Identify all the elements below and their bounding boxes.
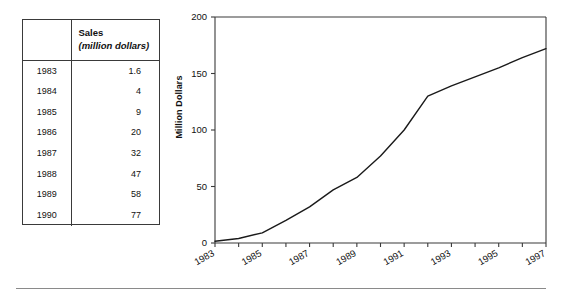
table-row: 198620 — [23, 122, 159, 143]
y-tick-label: 150 — [191, 68, 207, 79]
table-row: 19844 — [23, 81, 159, 102]
cell-year: 1989 — [23, 184, 71, 205]
table-row: 199077 — [23, 205, 159, 226]
table-body: 19831.6198441985919862019873219884719895… — [23, 60, 159, 226]
cell-year: 1990 — [23, 205, 71, 226]
y-tick-label: 100 — [191, 124, 207, 135]
header-year-blank — [23, 20, 71, 60]
figure-root: Sales (million dollars) 19831.6198441985… — [0, 0, 562, 297]
x-tick-label: 1997 — [523, 247, 547, 267]
x-tick-label: 1985 — [239, 247, 263, 267]
cell-sales: 1.6 — [71, 60, 159, 81]
x-tick-label: 1989 — [334, 247, 358, 267]
x-tick-label: 1987 — [287, 247, 311, 267]
x-axis-ticks — [215, 243, 546, 247]
table: Sales (million dollars) 19831.6198441985… — [23, 20, 159, 226]
header-sales: Sales (million dollars) — [71, 20, 159, 60]
bottom-divider-rule — [16, 288, 546, 289]
chart-svg: 050100150200 198319851987198919911993199… — [160, 0, 562, 297]
y-axis-ticks: 050100150200 — [191, 11, 215, 248]
line-chart: Million Dollars 050100150200 19831985198… — [160, 0, 562, 297]
y-tick-label: 200 — [191, 11, 207, 22]
cell-year: 1984 — [23, 81, 71, 102]
x-tick-label: 1993 — [429, 247, 453, 267]
cell-sales: 58 — [71, 184, 159, 205]
y-tick-label: 50 — [196, 181, 207, 192]
cell-year: 1986 — [23, 122, 71, 143]
table-row: 19859 — [23, 101, 159, 122]
axis-frame — [215, 17, 546, 243]
cell-sales: 47 — [71, 163, 159, 184]
cell-sales: 32 — [71, 143, 159, 164]
table-row: 198847 — [23, 163, 159, 184]
cell-year: 1985 — [23, 101, 71, 122]
cell-sales: 77 — [71, 205, 159, 226]
cell-year: 1983 — [23, 60, 71, 81]
cell-sales: 9 — [71, 101, 159, 122]
x-axis-tick-labels: 19831985198719891991199319951997 — [192, 247, 547, 267]
table-row: 198732 — [23, 143, 159, 164]
cell-sales: 20 — [71, 122, 159, 143]
x-tick-label: 1983 — [192, 247, 216, 267]
x-tick-label: 1995 — [476, 247, 500, 267]
x-tick-label: 1991 — [381, 247, 405, 267]
header-sales-units: (million dollars) — [79, 40, 160, 53]
cell-year: 1987 — [23, 143, 71, 164]
y-tick-label: 0 — [202, 237, 207, 248]
table-row: 19831.6 — [23, 60, 159, 81]
header-sales-title: Sales — [79, 27, 160, 40]
table-row: 198958 — [23, 184, 159, 205]
cell-sales: 4 — [71, 81, 159, 102]
data-series-line — [215, 49, 546, 242]
cell-year: 1988 — [23, 163, 71, 184]
table-header-row: Sales (million dollars) — [23, 20, 159, 60]
sales-data-table: Sales (million dollars) 19831.6198441985… — [22, 19, 160, 225]
